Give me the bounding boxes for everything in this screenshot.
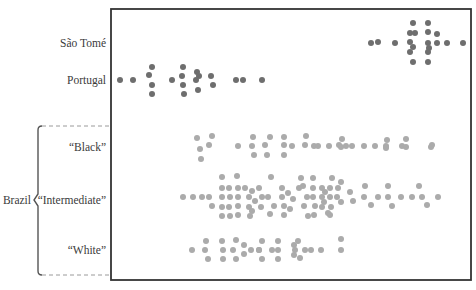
data-point (398, 194, 404, 200)
data-point (220, 247, 226, 253)
data-point (303, 133, 309, 139)
data-point (392, 40, 398, 46)
data-point (361, 194, 367, 200)
data-point (146, 72, 152, 78)
data-point (275, 256, 281, 262)
data-point (409, 194, 415, 200)
data-point (252, 198, 258, 204)
data-point (241, 251, 247, 257)
data-point (240, 77, 246, 83)
data-point (227, 213, 233, 219)
data-point (199, 194, 205, 200)
data-point (410, 59, 416, 65)
data-point (338, 236, 344, 242)
data-point (372, 143, 378, 149)
series-points (194, 133, 435, 162)
data-point (275, 247, 281, 253)
data-point (385, 194, 391, 200)
data-point (268, 174, 274, 180)
data-point (206, 194, 212, 200)
data-point (195, 87, 201, 93)
category-label: “White” (68, 244, 106, 256)
data-point (302, 247, 308, 253)
category-label: “Intermediate” (38, 194, 106, 206)
data-point (326, 143, 332, 149)
data-point (256, 185, 262, 191)
data-point (219, 213, 225, 219)
data-point (338, 247, 344, 253)
data-point (203, 238, 209, 244)
data-point (246, 194, 252, 200)
series-points (368, 20, 466, 65)
data-point (338, 144, 344, 150)
data-point (425, 20, 431, 26)
data-point (285, 190, 291, 196)
data-point (259, 194, 265, 200)
data-point (292, 247, 298, 253)
data-point (416, 183, 422, 189)
data-point (279, 185, 285, 191)
data-point (368, 202, 374, 208)
data-point (247, 213, 253, 219)
data-point (322, 189, 328, 195)
data-point (281, 203, 287, 209)
category-label: “Black” (69, 141, 106, 153)
data-point (310, 175, 316, 181)
data-point (220, 256, 226, 262)
data-point (338, 179, 344, 185)
data-point (385, 183, 391, 189)
data-point (198, 156, 204, 162)
data-point (242, 185, 248, 191)
data-point (291, 252, 297, 258)
data-point (235, 185, 241, 191)
data-point (235, 194, 241, 200)
data-point (425, 29, 431, 35)
data-point (301, 203, 307, 209)
data-point (425, 59, 431, 65)
data-point (206, 142, 212, 148)
data-point (230, 247, 236, 253)
data-point (189, 247, 195, 253)
data-point (219, 174, 225, 180)
data-points (117, 20, 466, 262)
data-point (241, 242, 247, 248)
data-point (315, 143, 321, 149)
data-point (275, 238, 281, 244)
data-point (219, 204, 225, 210)
data-point (434, 40, 440, 46)
data-point (219, 185, 225, 191)
data-point (279, 194, 285, 200)
data-point (318, 247, 324, 253)
data-point (295, 238, 301, 244)
data-point (233, 237, 239, 243)
data-point (304, 194, 310, 200)
data-point (287, 206, 293, 212)
data-point (226, 204, 232, 210)
data-point (389, 203, 395, 209)
group-label-brazil: Brazil (3, 194, 31, 206)
data-point (235, 143, 241, 149)
data-point (338, 199, 344, 205)
data-point (193, 77, 199, 83)
data-point (347, 189, 353, 195)
data-point (290, 196, 296, 202)
data-point (424, 202, 430, 208)
data-point (190, 194, 196, 200)
category-label: Portugal (67, 74, 106, 87)
data-point (308, 247, 314, 253)
data-point (281, 212, 287, 218)
data-point (403, 144, 409, 150)
data-point (310, 194, 316, 200)
data-point (258, 204, 264, 210)
data-point (383, 145, 389, 151)
data-point (349, 143, 355, 149)
data-point (460, 40, 466, 46)
data-point (179, 73, 185, 79)
data-point (281, 152, 287, 158)
data-point (362, 183, 368, 189)
data-point (310, 185, 316, 191)
data-point (226, 185, 232, 191)
category-label: São Tomé (60, 37, 106, 49)
data-point (256, 247, 262, 253)
data-point (219, 194, 225, 200)
